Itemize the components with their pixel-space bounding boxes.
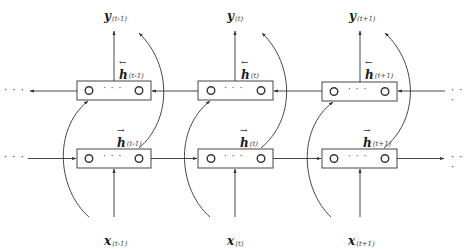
backward-state-label-t-plus-1: ←h(t+1) [365, 66, 393, 82]
cell-ellipsis: · · · [103, 152, 122, 161]
cell-ellipsis: · · · [348, 85, 367, 94]
input-label-t-minus-1: x(t-1) [104, 232, 127, 248]
input-label-t-plus-1: x(t+1) [348, 232, 375, 248]
cell-ellipsis: · · · [348, 152, 367, 161]
input-label-t: x(t) [227, 232, 243, 248]
backward-state-label-t: ←h(t) [241, 66, 259, 82]
forward-state-label-t-minus-1: →h(t-1) [117, 134, 142, 150]
backward-state-label-t-minus-1: ←h(t-1) [119, 66, 144, 82]
right-ellipsis-backward: · · · [451, 85, 471, 105]
cell-ellipsis: · · · [224, 152, 243, 161]
output-label-t-minus-1: y(t-1) [104, 7, 127, 23]
right-arrow-accent-icon: → [240, 126, 248, 135]
forward-state-label-t-plus-1: →h(t+1) [363, 134, 391, 150]
left-arrow-accent-icon: ← [119, 58, 127, 67]
left-ellipsis-forward: · · · [4, 152, 25, 162]
cell-ellipsis: · · · [224, 84, 243, 93]
right-arrow-accent-icon: → [117, 126, 125, 135]
birnn-diagram: · · · · · · · · · · · · · · · · · · · · … [0, 0, 471, 249]
output-label-t: y(t) [227, 7, 243, 23]
cell-ellipsis: · · · [103, 84, 122, 93]
left-arrow-accent-icon: ← [365, 58, 373, 67]
diagram-canvas [0, 0, 471, 249]
left-arrow-accent-icon: ← [241, 58, 249, 67]
output-label-t-plus-1: y(t+1) [349, 7, 376, 23]
right-arrow-accent-icon: → [363, 126, 371, 135]
left-ellipsis-backward: · · · [4, 85, 25, 95]
right-ellipsis-forward: · · · [451, 152, 471, 172]
forward-state-label-t: →h(t) [240, 134, 258, 150]
